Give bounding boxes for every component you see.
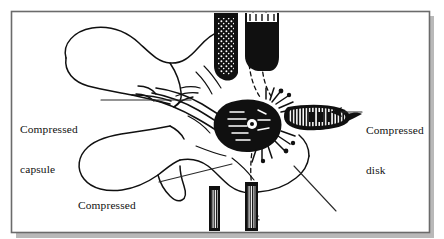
label-osteophyte-formation: Osteophyte formation — [308, 214, 411, 239]
vertebral-artery — [214, 13, 238, 81]
label-compressed-nerve-root: Compressed nerve root — [78, 172, 136, 239]
vertebral-vein — [245, 13, 279, 71]
label-compressed-disk: Compressed disk — [366, 97, 424, 204]
label-compressed-capsule-line1: Compressed — [20, 123, 78, 136]
label-compressed-disk-line1: Compressed — [366, 124, 424, 137]
label-compressed-capsule: Compressed capsule — [20, 96, 78, 203]
label-compressed-disk-line2: disk — [366, 164, 424, 177]
figure-container: Compressed capsule Compressed nerve root… — [0, 0, 444, 239]
compressed-junction-mass — [214, 100, 282, 153]
label-compressed-capsule-line2: capsule — [20, 163, 78, 176]
label-compressed-nerve-root-line1: Compressed — [78, 199, 136, 212]
